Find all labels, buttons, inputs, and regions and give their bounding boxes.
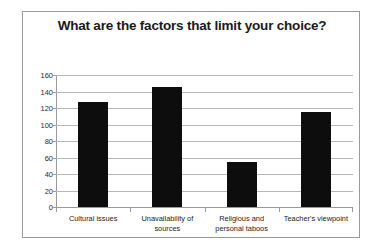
y-axis-tick-label: 160 xyxy=(27,71,53,80)
y-axis-tick-label: 40 xyxy=(27,170,53,179)
y-axis-tick-label: 80 xyxy=(27,137,53,146)
x-axis-tick-group xyxy=(56,208,353,213)
x-axis-tick-mark xyxy=(130,208,131,212)
chart-title: What are the factors that limit your cho… xyxy=(37,18,347,34)
bar xyxy=(227,162,257,207)
x-axis-label-group: Cultural issuesUnavailability of sources… xyxy=(56,214,353,240)
bar xyxy=(301,112,331,207)
x-axis-tick-mark xyxy=(279,208,280,212)
x-axis-tick-mark xyxy=(205,208,206,212)
bar-slot xyxy=(205,75,279,207)
y-axis-tick-label: 60 xyxy=(27,153,53,162)
x-axis-category-label: Religious and personal taboos xyxy=(205,214,279,233)
x-axis-category-label: Teacher's viewpoint xyxy=(279,214,353,224)
x-axis-category-label: Unavailability of sources xyxy=(130,214,204,233)
y-axis-tick-label: 140 xyxy=(27,87,53,96)
bar-slot xyxy=(130,75,204,207)
chart-container: What are the factors that limit your cho… xyxy=(22,11,360,238)
bar-slot xyxy=(279,75,353,207)
x-axis-tick-mark xyxy=(352,208,353,212)
y-axis-tick-label: 20 xyxy=(27,186,53,195)
x-axis-category-label: Cultural issues xyxy=(56,214,130,224)
bar-group xyxy=(56,75,353,207)
y-axis-tick-label: 0 xyxy=(27,203,53,212)
y-axis-tick-label: 100 xyxy=(27,120,53,129)
bar xyxy=(78,102,108,207)
bar-slot xyxy=(56,75,130,207)
y-axis-tick-group: 020406080100120140160 xyxy=(23,75,53,207)
x-axis-tick-mark xyxy=(56,208,57,212)
plot-area xyxy=(56,75,353,207)
y-axis-tick-label: 120 xyxy=(27,104,53,113)
bar xyxy=(152,87,182,207)
